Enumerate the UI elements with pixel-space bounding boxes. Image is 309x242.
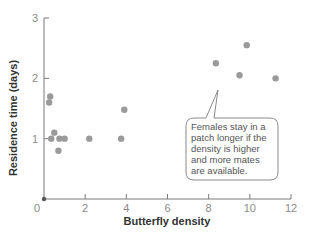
data-point <box>121 107 127 113</box>
y-axis-title: Residence time (days) <box>7 60 19 176</box>
data-point <box>46 99 52 105</box>
data-point <box>236 72 242 78</box>
x-tick-label: 8 <box>206 202 212 214</box>
y-ticks: 123 <box>32 12 49 145</box>
x-tick-label: 2 <box>82 202 88 214</box>
x-tick-label: 0 <box>34 202 40 214</box>
x-tick-label: 4 <box>123 202 129 214</box>
callout-line: patch longer if the <box>191 132 267 143</box>
data-point <box>61 135 67 141</box>
x-tick-label: 6 <box>164 202 170 214</box>
data-point <box>42 197 46 201</box>
callout-annotation: Females stay in a patch longer if the de… <box>186 90 278 180</box>
y-tick-label: 2 <box>32 72 38 84</box>
scatter-chart: 024681012 123 Butterfly density Residenc… <box>0 0 309 242</box>
data-point <box>47 93 53 99</box>
data-point <box>244 42 250 48</box>
y-tick-label: 3 <box>32 12 38 24</box>
data-point <box>272 75 278 81</box>
callout-line: Females stay in a <box>191 121 266 132</box>
data-point <box>118 135 124 141</box>
callout-line: are available. <box>191 165 248 176</box>
data-point <box>86 135 92 141</box>
x-tick-label: 10 <box>244 202 256 214</box>
data-point <box>48 135 54 141</box>
data-point <box>51 129 57 135</box>
data-point <box>55 148 61 154</box>
x-tick-label: 12 <box>285 202 297 214</box>
callout-line: density is higher <box>191 143 260 154</box>
x-axis-title: Butterfly density <box>124 215 212 227</box>
y-tick-label: 1 <box>32 133 38 145</box>
callout-line: and more mates <box>191 154 260 165</box>
x-ticks: 024681012 <box>34 194 297 214</box>
data-point <box>213 60 219 66</box>
